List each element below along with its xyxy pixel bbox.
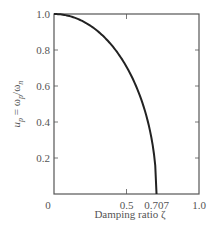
x-tick-label: 0 [45,199,51,211]
damping-chart: 0.20.40.60.81.000.50.7071.0 Damping rati… [0,0,209,239]
axis-ticks [54,14,199,194]
x-axis-label: Damping ratio ζ [94,208,166,221]
y-axis-label: up = ωp/ωn [10,81,25,128]
tick-labels: 0.20.40.60.81.000.50.7071.0 [36,8,206,211]
y-tick-label: 1.0 [36,8,50,20]
y-label-sub-n: n [16,81,25,85]
y-label-eq: = ω [10,99,22,118]
x-tick-label: 1.0 [192,199,206,211]
plot-frame [54,14,199,194]
y-tick-label: 0.6 [36,80,50,92]
y-tick-label: 0.2 [36,152,50,164]
frequency-ratio-curve [54,14,157,194]
y-tick-label: 0.8 [36,44,50,56]
y-label-slash: /ω [10,85,22,95]
plot-border [54,14,199,194]
y-tick-label: 0.4 [36,116,50,128]
